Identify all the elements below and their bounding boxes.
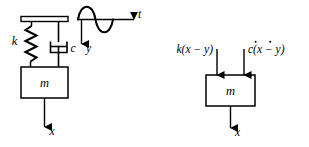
free-body-diagram-group: m k(x − y) c(x − y) x [177,41,285,138]
time-axis-label: t [138,8,142,20]
damping-coefficient-label: c [71,42,76,54]
spring-stiffness-label: k [12,34,18,48]
diagram-canvas: k c m x t y [0,0,309,147]
vibration-diagram-figure: k c m x t y [0,0,309,147]
svg-text:c(x − y): c(x − y) [248,43,285,56]
support-bar [21,17,68,22]
physical-model-group: k c m x t y [12,7,142,137]
fbd-mass-label: m [226,84,235,98]
ydot-derivative-dot [269,41,271,43]
mass-label: m [40,76,49,90]
fbd-damper-force-operator: − [262,43,276,55]
xdot-derivative-dot [255,41,257,43]
fbd-damper-force-label: c(x − y) [248,41,285,56]
mass-displacement-label: x [49,125,56,137]
spring-coil [26,26,37,62]
fbd-spring-force-label: k(x − y) [177,43,214,56]
fbd-damper-force-close: ) [280,43,285,56]
fbd-displacement-label: x [234,126,241,138]
base-displacement-label: y [85,42,92,55]
